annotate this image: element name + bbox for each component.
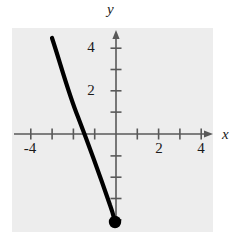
- x-tick-label-2: 2: [145, 140, 173, 157]
- graph-figure: y x -4 2 4 2 4: [0, 0, 233, 234]
- graph-canvas: [0, 0, 233, 234]
- x-tick-label-4: 4: [187, 140, 215, 157]
- y-axis-label: y: [107, 1, 114, 18]
- y-tick-label-4: 4: [80, 39, 102, 56]
- y-tick-label-2: 2: [80, 82, 102, 99]
- x-axis-label: x: [222, 126, 229, 143]
- endpoint-dot: [109, 216, 121, 228]
- x-tick-label-neg4: -4: [16, 140, 44, 157]
- x-axis: [14, 130, 213, 137]
- data-curve: [52, 38, 115, 222]
